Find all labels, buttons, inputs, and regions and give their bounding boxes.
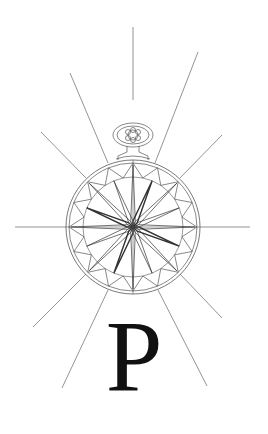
compass-star-point [89,183,133,227]
compass-star-point [133,183,177,227]
compass-star-point [133,227,177,271]
compass-star-point [89,227,133,271]
ray-line [70,73,108,163]
ray-line [180,135,222,178]
watch-dial [66,160,200,294]
ray-line [155,52,198,163]
watch-pendant-icon [113,123,153,160]
monogram-letter: P [0,306,268,408]
ray-line [41,132,86,178]
